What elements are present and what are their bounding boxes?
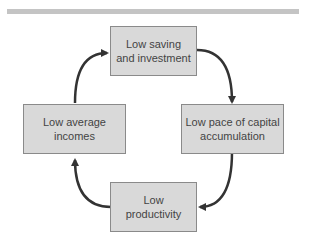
node-low-average-incomes: Low averageincomes xyxy=(23,104,126,154)
node-label: Low pace of capital xyxy=(185,115,279,129)
node-low-productivity: Lowproductivity xyxy=(110,182,197,232)
node-label: accumulation xyxy=(185,129,279,143)
node-label: productivity xyxy=(126,207,182,221)
arrow-bottom-to-left xyxy=(75,160,111,207)
node-label: Low xyxy=(126,193,182,207)
arrow-top-to-right xyxy=(197,50,232,102)
node-label: Low saving xyxy=(116,37,191,51)
node-label: and investment xyxy=(116,51,191,65)
node-label: Low average xyxy=(43,115,106,129)
node-low-capital-accumulation: Low pace of capitalaccumulation xyxy=(181,104,284,154)
node-label: incomes xyxy=(43,129,106,143)
node-low-saving: Low savingand investment xyxy=(110,26,197,76)
arrow-left-to-top xyxy=(75,53,107,103)
arrow-right-to-bottom xyxy=(200,152,232,207)
